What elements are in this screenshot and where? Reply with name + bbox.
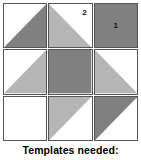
quilt-block-r3c2[interactable] [48, 96, 92, 141]
quilt-template-diagram: 2 1 [0, 0, 141, 160]
half-square-triangle-lower-left-light-icon [49, 4, 91, 47]
templates-needed-caption: Templates needed: [0, 144, 141, 156]
triangle-shape [49, 97, 91, 140]
triangle-shape [49, 4, 91, 47]
quilt-block-r3c1[interactable] [3, 96, 47, 141]
half-square-triangle-lower-left-light-icon [95, 50, 137, 93]
half-square-triangle-lower-right-light-icon [4, 50, 46, 93]
solid-square-dark-icon [49, 50, 91, 93]
half-square-triangle-upper-left-light-icon [49, 97, 91, 140]
quilt-block-r1c1[interactable] [3, 3, 47, 48]
quilt-block-r2c3[interactable] [94, 49, 138, 94]
quilt-block-r3c3[interactable] [94, 96, 138, 141]
empty-square-icon [4, 97, 46, 140]
square-shape [95, 4, 137, 47]
half-square-triangle-upper-left-dark-icon [95, 97, 137, 140]
quilt-block-r2c2[interactable] [48, 49, 92, 94]
quilt-block-grid: 2 1 [3, 3, 138, 141]
triangle-shape [4, 50, 46, 93]
quilt-block-r1c3[interactable]: 1 [94, 3, 138, 48]
square-shape [4, 97, 46, 140]
quilt-block-r1c2[interactable]: 2 [48, 3, 92, 48]
triangle-shape [95, 97, 137, 140]
square-shape [49, 50, 91, 93]
quilt-block-r2c1[interactable] [3, 49, 47, 94]
half-square-triangle-lower-right-dark-icon [4, 4, 46, 47]
triangle-shape [95, 50, 137, 93]
solid-square-dark-icon [95, 4, 137, 47]
triangle-shape [4, 4, 46, 47]
